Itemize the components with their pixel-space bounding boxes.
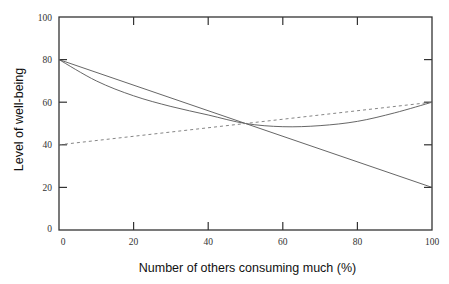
y-axis-title: Level of well-being bbox=[12, 68, 26, 172]
y-tick-label: 100 bbox=[38, 13, 53, 23]
series-solid-curved bbox=[59, 60, 432, 127]
x-tick-label: 80 bbox=[353, 237, 363, 247]
x-tick-label: 60 bbox=[278, 237, 288, 247]
x-tick-label: 40 bbox=[203, 237, 213, 247]
line-chart: 020406080100020406080100Number of others… bbox=[0, 0, 449, 284]
x-tick-label: 0 bbox=[61, 237, 66, 247]
y-tick-label: 20 bbox=[43, 183, 53, 193]
series-dashed-linear-increasing bbox=[59, 102, 432, 145]
y-tick-label: 60 bbox=[43, 98, 53, 108]
x-tick-label: 100 bbox=[425, 237, 440, 247]
y-tick-label: 40 bbox=[43, 140, 53, 150]
y-tick-label: 0 bbox=[47, 224, 52, 234]
x-axis-title: Number of others consuming much (%) bbox=[139, 261, 356, 275]
x-tick-label: 20 bbox=[129, 237, 139, 247]
y-tick-label: 80 bbox=[43, 55, 53, 65]
